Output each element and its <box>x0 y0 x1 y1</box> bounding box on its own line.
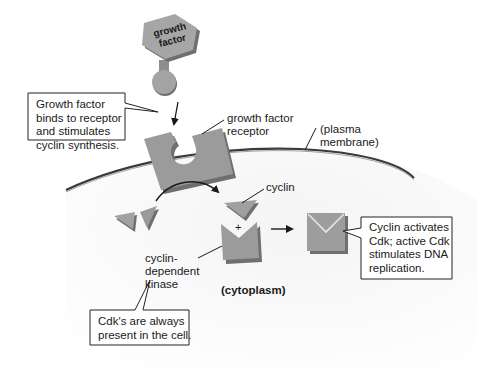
plus-sign: + <box>235 221 241 234</box>
callout-activation-text: Cyclin activates Cdk; active Cdk stimula… <box>369 221 450 275</box>
cyclin-label: cyclin <box>266 181 295 194</box>
active-cdk-complex <box>307 213 348 254</box>
membrane-leader-line <box>305 128 316 150</box>
diagram-canvas: growth factor growth factor receptor (pl… <box>0 0 477 368</box>
diagram-art <box>0 0 477 368</box>
cdk-label: cyclin- dependent kinase <box>145 252 199 291</box>
receptor-label: growth factor receptor <box>227 112 293 138</box>
binding-arrow <box>174 102 178 124</box>
callout-binding-text: Growth factor binds to receptor and stim… <box>36 98 122 152</box>
plasma-membrane-label: (plasma membrane) <box>320 123 379 149</box>
callout-cdk-text: Cdk's are always present in the cell. <box>98 315 191 342</box>
cytoplasm-label: (cytoplasm) <box>221 284 286 297</box>
